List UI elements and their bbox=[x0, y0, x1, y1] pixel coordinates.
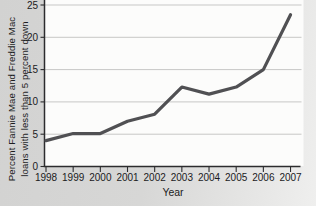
x-tick-label: 2004 bbox=[198, 172, 221, 183]
x-tick-label: 2006 bbox=[252, 172, 275, 183]
line-chart-svg: 0510152025199819992000200120022003200420… bbox=[0, 0, 316, 206]
y-axis-title-text: Percent Fannie Mae and Freddie Mac loans… bbox=[5, 17, 31, 181]
x-axis-title: Year bbox=[162, 186, 184, 198]
x-tick-label: 2003 bbox=[171, 172, 194, 183]
y-axis-title-line1: Percent Fannie Mae and Freddie Mac bbox=[5, 17, 18, 181]
x-tick-label: 1998 bbox=[35, 172, 58, 183]
y-axis-title: Percent Fannie Mae and Freddie Mac loans… bbox=[0, 0, 36, 198]
x-tick-label: 2005 bbox=[225, 172, 248, 183]
x-tick-label: 2001 bbox=[116, 172, 139, 183]
chart-figure: 0510152025199819992000200120022003200420… bbox=[0, 0, 316, 206]
x-tick-label: 2007 bbox=[279, 172, 302, 183]
plot-area bbox=[44, 0, 304, 166]
y-axis-title-line2: loans with less than 5 percent down bbox=[18, 17, 31, 181]
x-tick-label: 2002 bbox=[144, 172, 167, 183]
x-tick-label: 1999 bbox=[62, 172, 85, 183]
x-tick-label: 2000 bbox=[89, 172, 112, 183]
